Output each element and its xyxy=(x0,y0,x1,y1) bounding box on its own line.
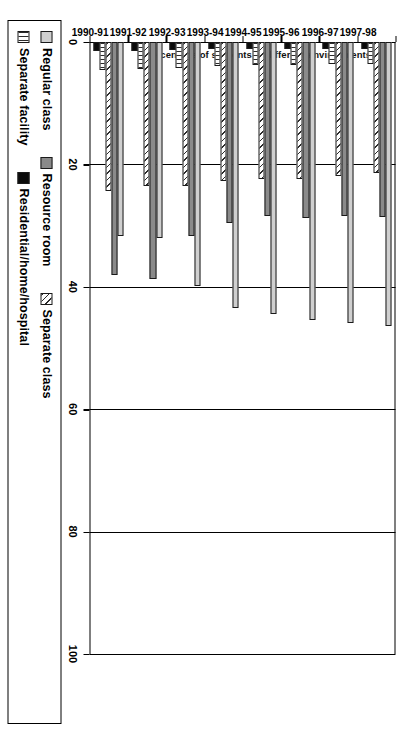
bar-separate-class-1990-91 xyxy=(105,42,111,191)
bar-resource-room-1995-96 xyxy=(302,42,308,218)
legend-row-2: Separate facilityResidential/home/hospit… xyxy=(13,31,33,715)
bar-separate-facility-1997-98 xyxy=(367,42,373,64)
bar-regular-class-1997-98 xyxy=(385,42,391,326)
plot-frame-top xyxy=(394,42,395,654)
bar-residential-home-hospital-1996-97 xyxy=(322,42,328,49)
bar-residential-home-hospital-1992-93 xyxy=(169,42,175,50)
category-label-1992-93: 1992-93 xyxy=(148,27,185,38)
legend-swatch-icon xyxy=(17,172,29,184)
category-label-1993-94: 1993-94 xyxy=(186,27,223,38)
value-axis-tick-label: 20 xyxy=(66,158,78,170)
chart-area: Percentage of students in different envi… xyxy=(73,0,413,744)
value-axis-tick-label: 100 xyxy=(66,645,78,663)
legend-swatch-icon xyxy=(40,31,52,43)
bar-regular-class-1996-97 xyxy=(347,42,353,323)
category-label-1996-97: 1996-97 xyxy=(301,27,338,38)
bar-separate-facility-1995-96 xyxy=(290,42,296,65)
value-axis-tick-label: 60 xyxy=(66,403,78,415)
bar-regular-class-1994-95 xyxy=(270,42,276,314)
legend-item-separate-facility[interactable]: Separate facility xyxy=(16,31,30,146)
bar-separate-class-1991-92 xyxy=(143,42,149,186)
chart-legend: Regular classResource roomSeparate class… xyxy=(7,20,61,724)
bar-separate-facility-1993-94 xyxy=(214,42,220,66)
bar-separate-facility-1991-92 xyxy=(137,42,143,69)
bar-resource-room-1994-95 xyxy=(264,42,270,216)
chart-page: Percentage of students in different envi… xyxy=(0,0,413,744)
value-axis-tick-label: 0 xyxy=(66,39,78,45)
bar-residential-home-hospital-1995-96 xyxy=(284,42,290,49)
bar-separate-facility-1990-91 xyxy=(99,42,105,70)
bar-resource-room-1993-94 xyxy=(226,42,232,223)
rotated-figure: Percentage of students in different envi… xyxy=(0,0,413,744)
category-label-1995-96: 1995-96 xyxy=(263,27,300,38)
bar-regular-class-1991-92 xyxy=(156,42,162,238)
category-label-1990-91: 1990-91 xyxy=(71,27,108,38)
bar-residential-home-hospital-1990-91 xyxy=(93,42,99,51)
gridline xyxy=(89,409,395,410)
legend-label: Residential/home/hospital xyxy=(16,189,30,346)
category-label-1991-92: 1991-92 xyxy=(110,27,147,38)
legend-swatch-icon xyxy=(17,31,29,43)
legend-swatch-icon xyxy=(40,293,52,305)
value-axis-tick xyxy=(83,164,89,165)
category-label-1994-95: 1994-95 xyxy=(224,27,261,38)
legend-label: Regular class xyxy=(39,48,53,131)
legend-item-separate-class[interactable]: Separate class xyxy=(39,293,53,399)
bar-separate-facility-1994-95 xyxy=(252,42,258,65)
legend-swatch-icon xyxy=(40,157,52,169)
bar-resource-room-1992-93 xyxy=(188,42,194,236)
bar-regular-class-1995-96 xyxy=(309,42,315,320)
value-axis-tick-label: 40 xyxy=(66,281,78,293)
bar-separate-class-1992-93 xyxy=(182,42,188,186)
value-axis-tick xyxy=(83,42,89,43)
bar-residential-home-hospital-1994-95 xyxy=(246,42,252,49)
legend-label: Separate facility xyxy=(16,48,30,146)
category-axis xyxy=(89,42,91,654)
bar-regular-class-1990-91 xyxy=(117,42,123,236)
bar-separate-class-1994-95 xyxy=(258,42,264,179)
bar-separate-class-1997-98 xyxy=(373,42,379,173)
value-axis-tick xyxy=(83,532,89,533)
bar-resource-room-1997-98 xyxy=(379,42,385,217)
bar-residential-home-hospital-1991-92 xyxy=(131,42,137,51)
bar-regular-class-1993-94 xyxy=(232,42,238,308)
bar-separate-class-1993-94 xyxy=(220,42,226,181)
bar-residential-home-hospital-1993-94 xyxy=(208,42,214,49)
value-axis-tick-label: 80 xyxy=(66,525,78,537)
bar-separate-class-1995-96 xyxy=(296,42,302,179)
gridline xyxy=(89,532,395,533)
bar-resource-room-1990-91 xyxy=(111,42,117,275)
value-axis-tick xyxy=(83,409,89,410)
bar-separate-facility-1992-93 xyxy=(175,42,181,68)
legend-row-1: Regular classResource roomSeparate class xyxy=(36,31,56,715)
bar-residential-home-hospital-1997-98 xyxy=(361,42,367,49)
bar-resource-room-1991-92 xyxy=(149,42,155,279)
gridline xyxy=(89,654,395,655)
category-tick-end xyxy=(395,36,396,42)
legend-label: Resource room xyxy=(39,174,53,267)
value-axis-tick xyxy=(83,654,89,655)
bar-separate-facility-1996-97 xyxy=(328,42,334,64)
legend-item-resource-room[interactable]: Resource room xyxy=(39,157,53,267)
value-axis-tick xyxy=(83,287,89,288)
bar-separate-class-1996-97 xyxy=(335,42,341,176)
legend-item-residential-home-hospital[interactable]: Residential/home/hospital xyxy=(16,172,30,346)
plot-region: 0204060801001990-911991-921992-931993-94… xyxy=(89,42,395,654)
category-label-1997-98: 1997-98 xyxy=(339,27,376,38)
bar-regular-class-1992-93 xyxy=(194,42,200,286)
legend-item-regular-class[interactable]: Regular class xyxy=(39,31,53,131)
bar-resource-room-1996-97 xyxy=(341,42,347,216)
legend-label: Separate class xyxy=(39,310,53,399)
